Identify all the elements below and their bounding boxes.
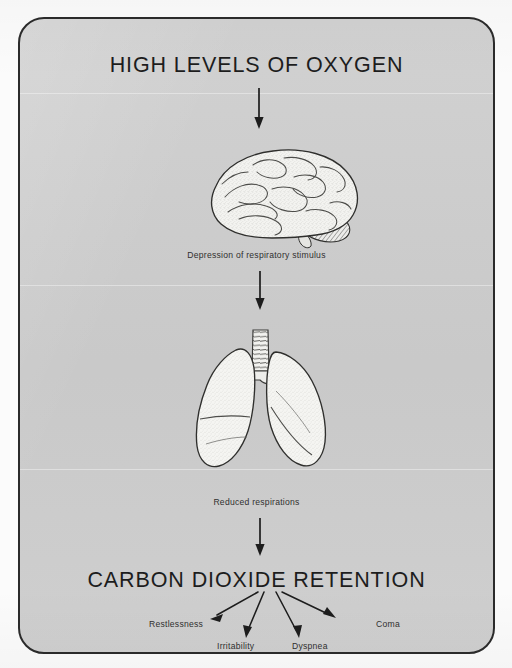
symptom-label-irritability: Irritability xyxy=(217,641,254,651)
symptom-label-dyspnea: Dyspnea xyxy=(292,641,328,651)
symptom-label-restlessness: Restlessness xyxy=(149,619,203,629)
symptom-label-coma: Coma xyxy=(376,619,400,629)
page-background: HIGH LEVELS OF OXYGEN xyxy=(0,0,512,668)
diagram-panel: HIGH LEVELS OF OXYGEN xyxy=(18,17,495,654)
symptom-arrows xyxy=(20,19,495,654)
